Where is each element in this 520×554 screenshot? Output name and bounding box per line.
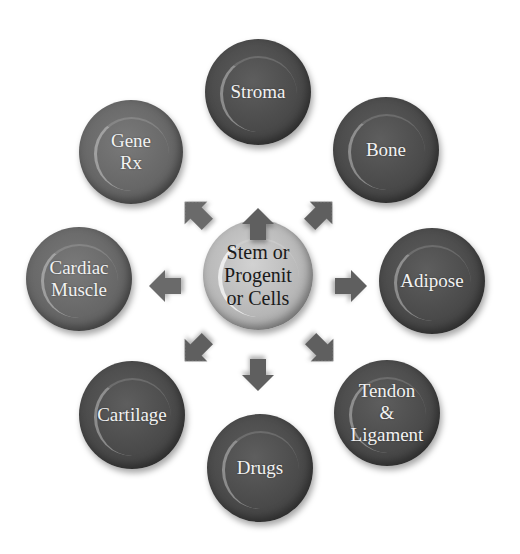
node-label: Stroma	[231, 81, 286, 103]
node-drugs: Drugs	[207, 414, 313, 522]
arrow-up-left-icon	[172, 189, 220, 237]
arrow-down-left-icon	[172, 326, 220, 374]
node-label: Cartilage	[97, 404, 167, 426]
node-cardiac-muscle: Cardiac Muscle	[26, 227, 132, 331]
node-gene-rx: Gene Rx	[79, 100, 183, 204]
center-node-label: Stem or Progenit or Cells	[224, 241, 292, 310]
node-stroma: Stroma	[205, 39, 311, 145]
node-tendon-ligament: Tendon & Ligament	[334, 360, 440, 466]
arrow-down-icon	[241, 358, 275, 392]
node-label: Tendon & Ligament	[351, 380, 424, 446]
arrow-up-icon	[241, 207, 275, 241]
arrow-down-right-icon	[298, 326, 346, 374]
arrow-left-icon	[148, 269, 182, 303]
node-label: Adipose	[400, 270, 463, 292]
node-label: Bone	[366, 139, 406, 161]
node-adipose: Adipose	[379, 228, 485, 334]
node-bone: Bone	[333, 97, 439, 203]
arrow-right-icon	[334, 269, 368, 303]
node-label: Cardiac Muscle	[49, 257, 108, 301]
node-label: Gene Rx	[111, 130, 151, 174]
node-label: Drugs	[237, 457, 283, 479]
node-cartilage: Cartilage	[79, 361, 185, 469]
arrow-up-right-icon	[297, 189, 345, 237]
